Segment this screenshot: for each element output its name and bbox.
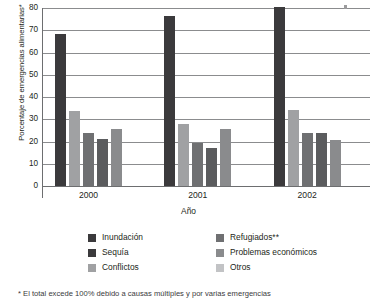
x-axis-label: Año <box>0 206 377 216</box>
plot-area: Porcentaje de emergencias alimentarias* … <box>0 0 377 200</box>
y-axis-tick-label: 30 <box>8 115 38 123</box>
legend-item[interactable]: Refugiados** <box>216 230 317 245</box>
y-axis-tick-label: 40 <box>8 93 38 101</box>
x-axis-tick-label: 2001 <box>168 190 228 200</box>
legend-item-label: Otros <box>230 263 250 272</box>
legend-item[interactable]: Otros <box>216 260 317 275</box>
bar <box>83 133 94 186</box>
legend-item[interactable]: Problemas económicos <box>216 245 317 260</box>
bar <box>274 7 285 186</box>
bar <box>206 148 217 186</box>
bar <box>316 133 327 186</box>
y-axis-tick-label: 20 <box>8 138 38 146</box>
bar <box>220 129 231 186</box>
bar <box>288 110 299 186</box>
legend-swatch-icon <box>216 234 224 242</box>
y-axis-tick-labels: 01020304050607080 <box>8 0 38 186</box>
x-axis-tick-label: 2000 <box>59 190 119 200</box>
legend-item-label: Conflictos <box>102 263 139 272</box>
y-axis-tick-label: 80 <box>8 4 38 12</box>
bar <box>55 34 66 186</box>
bar <box>178 124 189 186</box>
bar <box>192 143 203 186</box>
bar-series-container <box>42 8 370 186</box>
legend-swatch-icon <box>216 249 224 257</box>
legend-swatch-icon <box>88 249 96 257</box>
scan-artifact <box>344 5 347 9</box>
bar <box>111 129 122 186</box>
legend-swatch-icon <box>88 234 96 242</box>
y-axis-tick-label: 10 <box>8 160 38 168</box>
legend-swatch-icon <box>216 264 224 272</box>
bar <box>330 140 341 186</box>
legend-item-label: Inundación <box>102 233 143 242</box>
x-axis-tick-label: 2002 <box>277 190 337 200</box>
legend-item-label: Sequía <box>102 248 129 257</box>
legend-swatch-icon <box>88 264 96 272</box>
legend-item-label: Refugiados** <box>230 233 279 242</box>
legend-item[interactable]: Conflictos <box>88 260 143 275</box>
legend-item[interactable]: Inundación <box>88 230 143 245</box>
bar <box>97 139 108 186</box>
y-axis-tick-label: 0 <box>8 182 38 190</box>
y-axis-tick-label: 60 <box>8 49 38 57</box>
chart-footnote: * El total excede 100% debido a causas m… <box>18 289 368 298</box>
bar <box>302 133 313 186</box>
bar <box>164 16 175 186</box>
bar <box>69 111 80 186</box>
y-axis-tick-label: 50 <box>8 71 38 79</box>
legend-column-right: Refugiados**Problemas económicosOtros <box>216 230 317 275</box>
legend-item[interactable]: Sequía <box>88 245 143 260</box>
bar-chart-figure: Porcentaje de emergencias alimentarias* … <box>0 0 377 299</box>
y-axis-tick-label: 70 <box>8 26 38 34</box>
legend-column-left: InundaciónSequíaConflictos <box>88 230 143 275</box>
legend-item-label: Problemas económicos <box>230 248 317 257</box>
x-axis-line <box>42 186 370 187</box>
